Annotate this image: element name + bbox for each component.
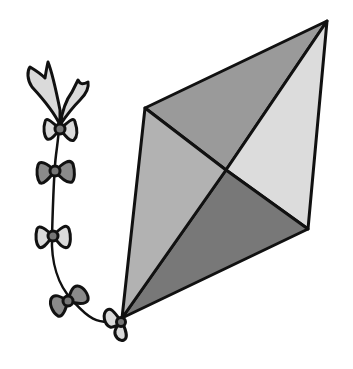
kite-illustration [0,0,353,369]
